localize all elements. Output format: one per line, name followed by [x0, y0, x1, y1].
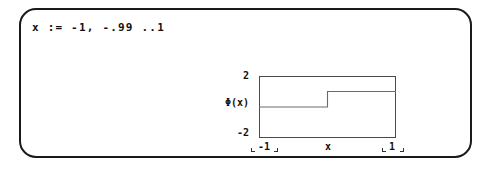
x-tick-mark-left-inner [274, 148, 278, 152]
plot-area[interactable]: 2 Φ(x) -2 -1 x 1 [0, 0, 498, 170]
x-tick-mark-right-inner [400, 148, 404, 152]
x-axis-label: x [316, 141, 340, 152]
y-tick-label-top: 2 [243, 70, 249, 81]
step-function-trace [259, 76, 396, 138]
x-tick-mark-left-outer [251, 148, 255, 152]
y-tick-label-bottom: -2 [237, 127, 249, 138]
screenshot-root: x := -1, -.99 ..1 2 Φ(x) -2 -1 x 1 [0, 0, 498, 170]
y-axis-label: Φ(x) [225, 97, 249, 108]
step-path [259, 92, 396, 108]
x-tick-mark-right-outer [382, 148, 386, 152]
